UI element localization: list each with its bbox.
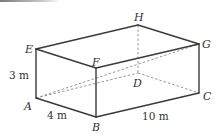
edge-AD [36, 73, 138, 98]
vertex-label-C: C [203, 90, 212, 103]
vertex-label-A: A [23, 100, 32, 113]
dimension-width: 4 m [47, 109, 67, 121]
dimension-length: 10 m [142, 110, 169, 122]
diagonal-AG [36, 44, 199, 98]
dimension-height: 3 m [9, 69, 29, 81]
vertex-label-B: B [91, 121, 100, 134]
edge-EF [36, 49, 96, 68]
edge-HG [138, 25, 199, 44]
vertex-label-F: F [91, 56, 100, 69]
edge-FG [96, 44, 199, 68]
vertex-label-H: H [133, 11, 144, 24]
edge-DC [138, 73, 199, 93]
vertex-label-G: G [202, 38, 211, 51]
edge-EH [36, 25, 138, 49]
vertex-label-E: E [24, 43, 33, 56]
cuboid-diagram: E F H G D C A B 3 m 4 m 10 m [0, 0, 218, 136]
vertex-label-D: D [132, 77, 142, 90]
